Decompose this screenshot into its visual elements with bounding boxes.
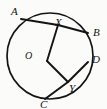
point-label-X: X: [55, 17, 62, 28]
circle-outline: [7, 13, 93, 99]
segment-x-o: [47, 25, 58, 61]
segment-o-y: [47, 61, 68, 82]
point-label-D: D: [92, 54, 100, 65]
geometry-figure: A X B O D Y C: [0, 0, 107, 109]
point-label-O: O: [25, 51, 32, 61]
point-label-A: A: [11, 6, 18, 17]
point-label-B: B: [93, 27, 100, 38]
point-label-C: C: [40, 99, 47, 109]
point-label-Y: Y: [69, 83, 75, 94]
